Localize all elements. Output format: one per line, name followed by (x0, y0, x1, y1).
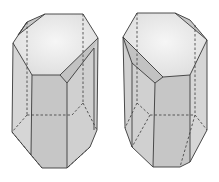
left-crystal (12, 14, 98, 168)
front-face (153, 75, 190, 167)
crystal-figure (0, 0, 219, 182)
front-face (31, 75, 67, 168)
right-crystal (123, 13, 207, 167)
